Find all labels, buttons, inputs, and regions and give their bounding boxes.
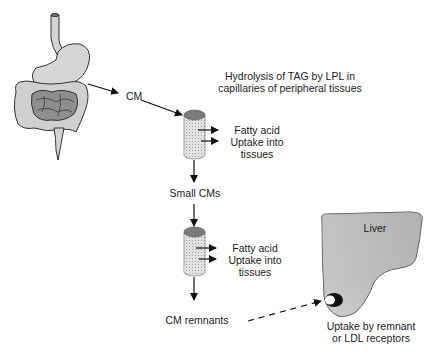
- label-hydrolysis: Hydrolysis of TAG by LPL in capillaries …: [190, 70, 390, 94]
- label-cm: CM: [126, 90, 142, 102]
- label-liver: Liver: [355, 222, 395, 234]
- label-fatty-acid-uptake-2: Fatty acid Uptake into tissues: [220, 242, 290, 278]
- label-receptor-line1: Uptake by remnant: [316, 320, 426, 332]
- diagram-canvas: [0, 0, 430, 354]
- arrow-gut-to-cm: [88, 84, 118, 93]
- label-receptor-line2: or LDL receptors: [316, 332, 426, 344]
- label-uptake-1-line2: tissues: [222, 148, 292, 160]
- label-receptor-uptake: Uptake by remnant or LDL receptors: [316, 320, 426, 344]
- capillary-cylinder-2: [184, 227, 205, 276]
- label-fatty-acid-uptake-1: Fatty acid Uptake into tissues: [222, 124, 292, 160]
- label-hydrolysis-line2: capillaries of peripheral tissues: [190, 82, 390, 94]
- digestive-tract-icon: [14, 14, 89, 161]
- capillary-cylinder-1: [184, 110, 205, 159]
- label-uptake-2-line1: Uptake into: [220, 254, 290, 266]
- arrow-remnants-to-liver: [248, 301, 321, 321]
- label-cm-remnants: CM remnants: [152, 314, 242, 326]
- receptor-icon: [325, 293, 343, 307]
- label-fatty-acid-2: Fatty acid: [220, 242, 290, 254]
- label-uptake-2-line2: tissues: [220, 266, 290, 278]
- label-fatty-acid-1: Fatty acid: [222, 124, 292, 136]
- label-uptake-1-line1: Uptake into: [222, 136, 292, 148]
- arrow-cm-to-capillary-1: [141, 100, 182, 115]
- label-hydrolysis-line1: Hydrolysis of TAG by LPL in: [190, 70, 390, 82]
- label-small-cms: Small CMs: [160, 187, 230, 199]
